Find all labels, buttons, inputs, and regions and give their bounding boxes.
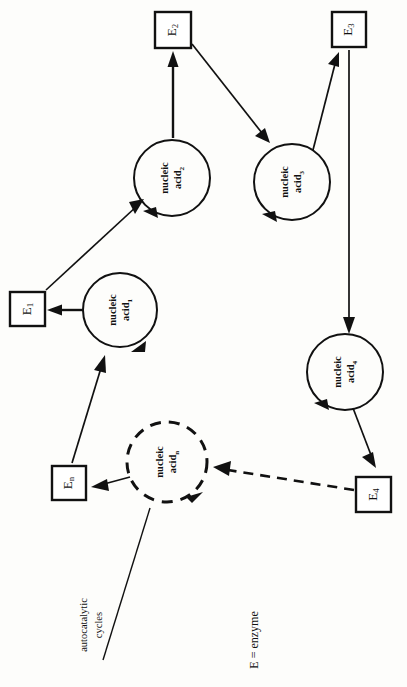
edge-e3-to-na4 [343, 50, 355, 334]
cycle-node-na2[interactable]: nucleic acid2 [134, 140, 210, 218]
cycle-label-na2-line2: acid2 [172, 166, 185, 189]
cycle-label-na3-line1: nucleic [279, 166, 290, 198]
cycle-label-na1-line2: acid1 [120, 298, 133, 321]
enzyme-label-e4-base: E [364, 493, 379, 501]
cycle-label-nan-base: acid [167, 454, 178, 473]
cycle-label-na4-line2: acid4 [345, 360, 358, 383]
edge-en-to-na1 [72, 355, 106, 463]
cycle-label-na4-sub: 4 [351, 360, 359, 364]
edge-na2-to-e2 [168, 51, 179, 138]
enzyme-node-e3[interactable]: E3 [332, 12, 366, 47]
edge-e2-to-na3 [192, 44, 270, 143]
annotation-autocatalytic-cycles: autocatalytic cycles [78, 508, 150, 660]
enzyme-label-e2-base: E [164, 28, 179, 36]
annotation-leader-line [103, 508, 150, 660]
edge-na3-to-e3 [313, 52, 339, 150]
cycle-label-na1-base: acid [120, 302, 131, 321]
enzyme-node-e2[interactable]: E2 [155, 12, 191, 48]
enzyme-label-en-base: E [60, 481, 75, 489]
cycle-label-na2-line1: nucleic [159, 162, 170, 194]
edge-nan-to-en [91, 477, 130, 491]
enzyme-node-en[interactable]: En [52, 466, 86, 500]
edge-na1-to-e1 [47, 305, 83, 316]
cycle-rotation-arrow-na3 [262, 211, 277, 222]
cycle-label-na2-base: acid [172, 170, 183, 189]
enzyme-label-e1-sub: 1 [25, 303, 35, 307]
enzyme-label-e2-sub: 2 [170, 24, 180, 28]
enzyme-label-e3-base: E [340, 28, 355, 36]
cycle-node-na3[interactable]: nucleic acid3 [254, 144, 330, 222]
enzyme-label-en-sub: n [66, 476, 76, 481]
cycle-rotation-arrow-nan [186, 492, 203, 503]
cycle-label-na3-sub: 3 [298, 170, 306, 174]
enzyme-label-e4-sub: 4 [371, 488, 381, 493]
cycle-label-na1-line1: nucleic [107, 294, 118, 326]
legend-enzyme-key: E = enzyme [247, 611, 261, 668]
diagram-canvas: nucleic acid1 nucleic acid2 nucleic [0, 0, 407, 687]
cycle-label-na4-base: acid [345, 364, 356, 383]
cycle-node-na4[interactable]: nucleic acid4 [307, 334, 383, 410]
enzyme-label-e1-base: E [18, 307, 33, 315]
edge-e4-to-nan [213, 461, 354, 490]
cycle-label-na2-sub: 2 [178, 166, 186, 170]
enzyme-node-e4[interactable]: E4 [356, 477, 391, 512]
cycle-label-na4-line1: nucleic [332, 356, 343, 388]
cycle-label-na3-line2: acid3 [292, 170, 305, 193]
edge-e1-to-na2 [46, 199, 144, 290]
enzyme-node-e1[interactable]: E1 [10, 292, 45, 326]
cycle-label-nan-sub: n [173, 451, 181, 455]
cycle-node-na1[interactable]: nucleic acid1 [83, 273, 157, 352]
legend-label: E = enzyme [247, 611, 261, 668]
cycle-node-nan[interactable]: nucleic acidn [127, 422, 207, 503]
cycle-label-nan-line1: nucleic [154, 446, 165, 478]
edge-na4-to-e4 [353, 408, 376, 468]
autocatalytic-cycle-diagram: nucleic acid1 nucleic acid2 nucleic [0, 0, 407, 687]
cycle-label-na1-sub: 1 [126, 298, 134, 302]
enzyme-label-e3-sub: 3 [346, 23, 356, 28]
cycle-label-na3-base: acid [292, 174, 303, 193]
annotation-label-line1: autocatalytic [78, 598, 89, 652]
annotation-label-line2: cycles [93, 612, 104, 638]
cycle-label-nan-line2: acidn [167, 451, 180, 474]
